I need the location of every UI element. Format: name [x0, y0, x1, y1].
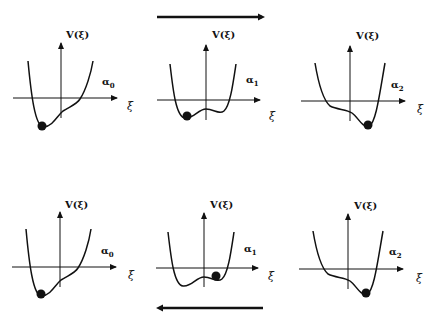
param-label: α1	[244, 243, 257, 257]
param-label: α2	[391, 79, 404, 93]
y-axis-label: V(ξ)	[209, 199, 233, 210]
ball-icon	[37, 290, 46, 299]
x-axis-label: ξ	[417, 103, 424, 116]
param-label: α1	[246, 74, 259, 88]
param-label: α0	[102, 76, 115, 90]
x-axis-label: ξ	[128, 269, 135, 282]
ball-icon	[183, 112, 192, 121]
panel-top-alpha0: V(ξ) α0 ξ	[13, 29, 134, 131]
panel-top-alpha2: V(ξ) α2 ξ	[301, 30, 424, 130]
ball-icon	[364, 121, 373, 130]
process-arrow-left	[156, 305, 263, 312]
param-label: α0	[101, 245, 114, 259]
y-axis-label: V(ξ)	[211, 29, 235, 40]
y-axis-label: V(ξ)	[65, 29, 89, 40]
x-axis-label: ξ	[268, 270, 275, 283]
panel-bottom-alpha0: V(ξ) α0 ξ	[12, 199, 135, 299]
ball-icon	[362, 289, 371, 298]
panel-top-alpha1: V(ξ) α1 ξ	[157, 29, 276, 123]
y-axis-label: V(ξ)	[64, 199, 88, 210]
param-label: α2	[389, 246, 402, 260]
panel-bottom-alpha2: V(ξ) α2 ξ	[299, 200, 423, 298]
ball-icon	[212, 272, 221, 281]
panel-bottom-alpha1: V(ξ) α1 ξ	[156, 199, 275, 287]
y-axis-label: V(ξ)	[353, 200, 377, 211]
x-axis-label: ξ	[127, 100, 134, 113]
hysteresis-diagram: V(ξ) α0 ξ V(ξ) α1 ξ V(ξ) α2 ξ V(ξ) α0 ξ	[0, 0, 446, 316]
ball-icon	[38, 122, 47, 131]
x-axis-label: ξ	[416, 272, 423, 285]
y-axis-label: V(ξ)	[355, 30, 379, 41]
x-axis-label: ξ	[269, 110, 276, 123]
process-arrow-right	[157, 14, 265, 21]
